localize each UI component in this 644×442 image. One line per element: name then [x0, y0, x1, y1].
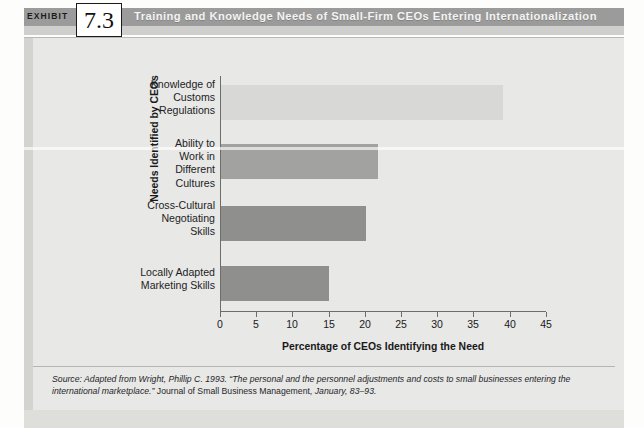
x-tick-label-5: 5 [241, 318, 271, 330]
x-axis-title: Percentage of CEOs Identifying the Need [220, 341, 546, 352]
category-label-line: Cross-Cultural [147, 199, 215, 212]
x-tick-label-30: 30 [422, 318, 452, 330]
category-label-line: Knowledge of [151, 78, 215, 91]
bar-knowledge-of-customs-regulations [221, 85, 503, 120]
x-tick-label-20: 20 [350, 318, 380, 330]
x-tick-label-45: 45 [531, 318, 561, 330]
exhibit-header: EXHIBIT 7.3 Training and Knowledge Needs… [0, 0, 644, 36]
category-label-line: Locally Adapted [140, 266, 215, 279]
category-label-3: Locally Adapted Marketing Skills [140, 266, 215, 292]
category-label-line: Negotiating [147, 212, 215, 225]
category-label-1: Ability to Work in Different Cultures [175, 137, 215, 190]
source-divider [33, 366, 615, 367]
source-note-line-2-italic: international marketplace.” [52, 386, 154, 396]
category-label-line: Cultures [175, 177, 215, 190]
panel-left-strip [24, 38, 33, 428]
x-tick-label-40: 40 [495, 318, 525, 330]
category-label-line: Skills [147, 225, 215, 238]
source-note-line-1: Source: Adapted from Wright, Phillip C. … [52, 374, 570, 384]
page-bottom-edge [0, 428, 644, 442]
x-tick-20 [365, 312, 366, 317]
x-tick-10 [292, 312, 293, 317]
scan-artifact-band [24, 147, 624, 150]
x-tick-5 [256, 312, 257, 317]
source-note: Source: Adapted from Wright, Phillip C. … [52, 373, 608, 398]
x-tick-0 [220, 312, 221, 317]
category-label-line: Ability to [175, 137, 215, 150]
x-axis-line [220, 311, 546, 312]
category-label-2: Cross-Cultural Negotiating Skills [147, 199, 215, 239]
x-tick-30 [437, 312, 438, 317]
category-label-line: Customs [151, 91, 215, 104]
exhibit-number: 7.3 [76, 4, 122, 38]
category-label-0: Knowledge of Customs Regulations [151, 78, 215, 118]
bar-cross-cultural-negotiating-skills [221, 206, 366, 241]
x-tick-45 [546, 312, 547, 317]
x-tick-40 [510, 312, 511, 317]
category-label-line: Marketing Skills [140, 279, 215, 292]
exhibit-word: EXHIBIT [27, 11, 68, 21]
exhibit-panel: Needs Identified by CEOs Knowledge of Cu… [24, 37, 624, 427]
exhibit-title: Training and Knowledge Needs of Small-Fi… [134, 10, 597, 22]
source-note-line-2-tail: January, 83–93. [315, 386, 377, 396]
x-tick-label-0: 0 [205, 318, 235, 330]
category-label-line: Work in [175, 150, 215, 163]
x-tick-label-15: 15 [314, 318, 344, 330]
x-tick-label-25: 25 [386, 318, 416, 330]
x-tick-25 [401, 312, 402, 317]
x-tick-15 [329, 312, 330, 317]
category-label-line: Regulations [151, 104, 215, 117]
exhibit-page: EXHIBIT 7.3 Training and Knowledge Needs… [0, 0, 644, 442]
x-tick-label-35: 35 [458, 318, 488, 330]
x-tick-label-10: 10 [277, 318, 307, 330]
x-tick-35 [473, 312, 474, 317]
category-label-line: Different [175, 163, 215, 176]
bar-locally-adapted-marketing-skills [221, 266, 329, 301]
panel-bottom-strip [24, 410, 624, 428]
source-note-journal: Journal of Small Business Management, [157, 386, 313, 396]
